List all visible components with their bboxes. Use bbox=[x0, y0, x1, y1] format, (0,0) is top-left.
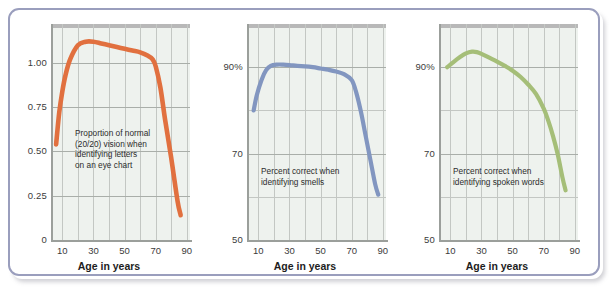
annotation-vision: Proportion of normal (20/20) vision when… bbox=[75, 128, 150, 170]
series-line-smell bbox=[212, 8, 398, 260]
annotation-smell: Percent correct when identifying smells bbox=[261, 166, 339, 187]
x-axis-title-vision: Age in years bbox=[16, 260, 202, 272]
annotation-hearing: Percent correct when identifying spoken … bbox=[453, 166, 544, 187]
chart-panel-hearing: 507090%1030507090Age in yearsPercent cor… bbox=[404, 8, 590, 260]
x-axis-title-smell: Age in years bbox=[212, 260, 398, 272]
chart-panel-vision: 00.250.500.751.001030507090Age in yearsP… bbox=[16, 8, 202, 260]
chart-panel-smell: 507090%1030507090Age in yearsPercent cor… bbox=[212, 8, 398, 260]
figure-root: 00.250.500.751.001030507090Age in yearsP… bbox=[0, 0, 609, 291]
x-axis-title-hearing: Age in years bbox=[404, 260, 590, 272]
series-line-hearing bbox=[404, 8, 590, 260]
